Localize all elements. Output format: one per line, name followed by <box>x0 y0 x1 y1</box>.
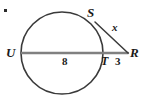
point-label-S: S <box>87 6 94 19</box>
figure-canvas <box>0 0 144 101</box>
point-label-T: T <box>101 55 108 67</box>
segment-label-TR: 3 <box>115 56 121 67</box>
point-label-U: U <box>6 46 15 59</box>
segment-label-UT: 8 <box>62 56 68 67</box>
segment-label-SR: x <box>112 22 118 33</box>
geometry-figure: U S x T R 8 3 <box>0 0 144 101</box>
point-label-R: R <box>130 46 139 59</box>
